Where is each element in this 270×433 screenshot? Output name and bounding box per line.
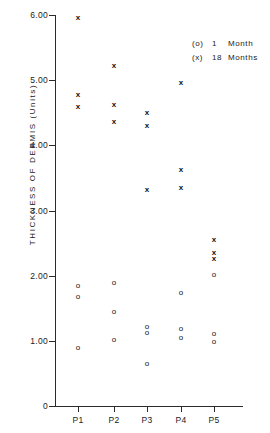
- y-tick-mark: [49, 145, 55, 146]
- data-point-o-p5: o: [209, 271, 219, 279]
- y-tick-mark: [49, 341, 55, 342]
- data-point-o-p3: o: [142, 360, 152, 368]
- x-tick-label-p3: P3: [134, 415, 160, 425]
- data-point-x-p2: x: [109, 62, 119, 70]
- legend-number-18-months: 18: [212, 51, 228, 65]
- x-tick-mark: [114, 406, 115, 412]
- x-tick-mark: [147, 406, 148, 412]
- data-point-o-p3: o: [142, 329, 152, 337]
- legend-number-1-month: 1: [212, 37, 228, 51]
- data-point-o-p4: o: [176, 334, 186, 342]
- data-point-x-p2: x: [109, 101, 119, 109]
- legend-item-18-months: (x) 18 Months: [192, 51, 258, 65]
- data-point-o-p1: o: [73, 293, 83, 301]
- y-axis-line: [55, 15, 56, 406]
- y-tick-mark: [49, 276, 55, 277]
- y-tick-label: 4.00: [14, 141, 48, 150]
- data-point-x-p5: x: [209, 255, 219, 263]
- data-point-o-p4: o: [176, 289, 186, 297]
- y-tick-mark: [49, 80, 55, 81]
- y-tick-label: 3.00: [14, 207, 48, 216]
- legend-label-18-months: Months: [228, 51, 258, 65]
- data-point-x-p4: x: [176, 184, 186, 192]
- y-tick-mark: [49, 15, 55, 16]
- data-point-o-p2: o: [109, 279, 119, 287]
- legend: (o) 1 Month (x) 18 Months: [192, 37, 258, 65]
- x-tick-mark: [78, 406, 79, 412]
- data-point-x-p3: x: [142, 122, 152, 130]
- data-point-o-p2: o: [109, 308, 119, 316]
- data-point-o-p1: o: [73, 282, 83, 290]
- x-tick-label-p5: P5: [201, 415, 227, 425]
- scatter-plot: THICKNESS OF DERMIS (Units) 01.002.003.0…: [0, 0, 270, 433]
- data-point-o-p4: o: [176, 325, 186, 333]
- legend-item-1-month: (o) 1 Month: [192, 37, 258, 51]
- y-tick-label: 5.00: [14, 76, 48, 85]
- y-tick-label: 1.00: [14, 337, 48, 346]
- x-tick-label-p1: P1: [65, 415, 91, 425]
- x-tick-label-p4: P4: [168, 415, 194, 425]
- y-tick-mark: [49, 211, 55, 212]
- y-tick-mark: [49, 406, 55, 407]
- data-point-x-p1: x: [73, 14, 83, 22]
- data-point-o-p2: o: [109, 336, 119, 344]
- legend-label-1-month: Month: [228, 37, 253, 51]
- y-tick-label: 6.00: [14, 11, 48, 20]
- data-point-o-p5: o: [209, 338, 219, 346]
- data-point-x-p1: x: [73, 91, 83, 99]
- data-point-x-p1: x: [73, 103, 83, 111]
- legend-symbol-circle-icon: (o): [192, 37, 212, 51]
- data-point-x-p2: x: [109, 118, 119, 126]
- y-tick-label: 0: [14, 402, 48, 411]
- data-point-o-p1: o: [73, 344, 83, 352]
- data-point-x-p3: x: [142, 109, 152, 117]
- y-tick-label: 2.00: [14, 272, 48, 281]
- legend-symbol-cross-icon: (x): [192, 51, 212, 65]
- data-point-x-p3: x: [142, 186, 152, 194]
- x-tick-label-p2: P2: [101, 415, 127, 425]
- data-point-x-p5: x: [209, 236, 219, 244]
- data-point-x-p4: x: [176, 166, 186, 174]
- x-tick-mark: [214, 406, 215, 412]
- x-tick-mark: [181, 406, 182, 412]
- data-point-x-p4: x: [176, 79, 186, 87]
